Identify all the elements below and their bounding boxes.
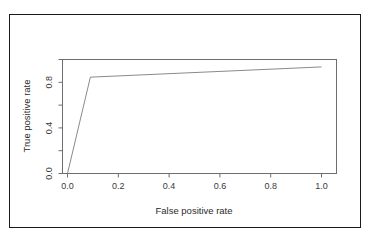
- x-tick-label-0: 0.0: [61, 181, 74, 191]
- roc-chart-svg: 0.0 0.2 0.4 0.6 0.8 1.0 0.0 0.4 0.8: [10, 15, 362, 229]
- x-tick-label-5: 1.0: [315, 181, 328, 191]
- y-tick-label-2: 0.8: [44, 76, 54, 89]
- x-tick-label-2: 0.4: [163, 181, 176, 191]
- y-tick-label-0: 0.0: [44, 167, 54, 180]
- x-axis-title: False positive rate: [155, 205, 232, 216]
- y-axis-ticks: [59, 60, 63, 174]
- y-axis-title: True positive rate: [21, 79, 32, 152]
- roc-plot-area: 0.0 0.2 0.4 0.6 0.8 1.0 0.0 0.4 0.8: [10, 15, 362, 229]
- x-tick-label-1: 0.2: [112, 181, 125, 191]
- x-tick-label-3: 0.6: [214, 181, 227, 191]
- figure-outer-border: 0.0 0.2 0.4 0.6 0.8 1.0 0.0 0.4 0.8: [9, 14, 361, 228]
- x-tick-label-4: 0.8: [264, 181, 277, 191]
- x-axis-ticks: [68, 174, 322, 178]
- y-tick-label-1: 0.4: [44, 122, 54, 135]
- roc-curve-line: [68, 67, 322, 174]
